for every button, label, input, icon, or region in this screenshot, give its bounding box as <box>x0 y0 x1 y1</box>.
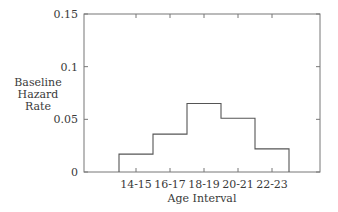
hazard-step-chart: 00.050.10.15 14-1516-1718-1920-2122-23 A… <box>0 0 338 212</box>
y-tick-label: 0.05 <box>54 113 79 126</box>
hazard-step-line <box>119 104 289 172</box>
x-tick-label: 22-23 <box>256 178 288 191</box>
y-tick-label: 0.15 <box>54 8 79 21</box>
y-axis: 00.050.10.15 <box>54 8 321 179</box>
y-axis-label: BaselineHazardRate <box>14 76 61 113</box>
step-series <box>119 104 289 172</box>
x-axis: 14-1516-1718-1920-2122-23 <box>120 14 288 191</box>
y-tick-label: 0.1 <box>61 61 79 74</box>
y-axis-label-line: Rate <box>25 100 51 113</box>
x-tick-label: 20-21 <box>222 178 254 191</box>
y-tick-label: 0 <box>71 166 78 179</box>
x-tick-label: 16-17 <box>154 178 186 191</box>
x-tick-label: 14-15 <box>120 178 152 191</box>
x-tick-label: 18-19 <box>188 178 220 191</box>
x-axis-label: Age Interval <box>167 192 237 205</box>
